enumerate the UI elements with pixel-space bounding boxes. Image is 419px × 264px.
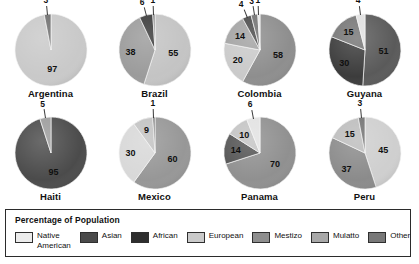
legend-item-mestizo: Mestizo bbox=[252, 231, 302, 243]
slice-value-label: 9 bbox=[144, 126, 149, 135]
slice-leader-line bbox=[44, 109, 46, 118]
slice-value-label: 30 bbox=[339, 58, 349, 67]
pie-graphic: 582014431 bbox=[224, 14, 296, 86]
pie-chart-panama: 7014106Panama bbox=[207, 103, 312, 206]
slice-value-label: 10 bbox=[239, 130, 249, 139]
slice-value-label: 20 bbox=[233, 56, 243, 65]
slice-value-label: 4 bbox=[356, 0, 361, 5]
legend-item-other: Other bbox=[368, 231, 410, 243]
legend-item-african: African bbox=[131, 231, 178, 243]
slice-value-label: 55 bbox=[168, 49, 178, 58]
slice-value-label: 70 bbox=[270, 160, 280, 169]
country-label: Colombia bbox=[207, 88, 312, 99]
legend-label: Native American bbox=[37, 231, 71, 250]
slice-value-label: 1 bbox=[256, 0, 261, 4]
pie-chart-argentina: 973Argentina bbox=[0, 0, 103, 103]
pie-graphic: 955 bbox=[15, 117, 87, 189]
legend-label: European bbox=[209, 231, 244, 241]
legend-swatch bbox=[252, 232, 270, 243]
legend-title: Percentage of Population bbox=[15, 215, 120, 225]
slice-value-label: 15 bbox=[344, 28, 354, 37]
slice-value-label: 3 bbox=[249, 0, 254, 5]
slice-leader-line bbox=[253, 6, 255, 15]
pie-chart-grid: 973Argentina553861Brazil582014431Colombi… bbox=[0, 0, 419, 206]
pie-graphic: 973 bbox=[15, 14, 87, 86]
slice-value-label: 38 bbox=[125, 47, 135, 56]
slice-value-label: 1 bbox=[151, 99, 156, 108]
pie-graphic: 4537153 bbox=[329, 117, 401, 189]
country-label: Peru bbox=[312, 191, 417, 202]
legend-item-european: European bbox=[187, 231, 244, 243]
country-label: Guyana bbox=[312, 88, 417, 99]
legend-panel: Percentage of Population Native American… bbox=[5, 209, 411, 257]
legend-item-asian: Asian bbox=[80, 231, 122, 243]
legend-label: African bbox=[153, 231, 178, 241]
legend-label: Mulatto bbox=[333, 231, 359, 241]
country-label: Haiti bbox=[0, 191, 103, 202]
pie-chart-colombia: 582014431Colombia bbox=[207, 0, 312, 103]
pie-chart-peru: 4537153Peru bbox=[312, 103, 417, 206]
slice-value-label: 58 bbox=[273, 50, 283, 59]
slice-leader-line bbox=[359, 6, 361, 15]
legend-label: Other bbox=[390, 231, 410, 241]
country-label: Panama bbox=[207, 191, 312, 202]
slice-value-label: 95 bbox=[48, 167, 58, 176]
slice-value-label: 37 bbox=[341, 164, 351, 173]
slice-value-label: 14 bbox=[235, 31, 245, 40]
country-label: Argentina bbox=[0, 88, 103, 99]
slice-value-label: 51 bbox=[378, 46, 388, 55]
legend-swatch bbox=[131, 232, 149, 243]
country-label: Mexico bbox=[102, 191, 207, 202]
legend-items: Native AmericanAsianAfricanEuropeanMesti… bbox=[15, 231, 406, 250]
slice-value-label: 6 bbox=[140, 0, 145, 6]
slice-value-label: 6 bbox=[248, 100, 253, 109]
pie-graphic: 5130154 bbox=[329, 14, 401, 86]
slice-value-label: 97 bbox=[47, 64, 57, 73]
legend-swatch bbox=[368, 232, 386, 243]
slice-value-label: 15 bbox=[345, 130, 355, 139]
legend-label: Asian bbox=[102, 231, 122, 241]
slice-leader-line bbox=[360, 109, 362, 118]
slice-leader-line bbox=[46, 6, 48, 15]
slice-value-label: 1 bbox=[151, 0, 156, 4]
slice-value-label: 4 bbox=[239, 0, 244, 8]
slice-value-label: 30 bbox=[125, 149, 135, 158]
pie-chart-mexico: 603091Mexico bbox=[102, 103, 207, 206]
slice-value-label: 60 bbox=[168, 154, 178, 163]
slice-value-label: 3 bbox=[357, 99, 362, 108]
legend-item-native-american: Native American bbox=[15, 231, 71, 250]
slice-value-label: 45 bbox=[378, 146, 388, 155]
pie-chart-guyana: 5130154Guyana bbox=[312, 0, 417, 103]
pie-graphic: 7014106 bbox=[224, 117, 296, 189]
slice-value-label: 14 bbox=[231, 146, 241, 155]
legend-label: Mestizo bbox=[274, 231, 302, 241]
pie-chart-haiti: 955Haiti bbox=[0, 103, 103, 206]
legend-swatch bbox=[311, 232, 329, 243]
legend-swatch bbox=[187, 232, 205, 243]
legend-swatch bbox=[80, 232, 98, 243]
pie-chart-figure: 973Argentina553861Brazil582014431Colombi… bbox=[0, 0, 419, 264]
pie-graphic: 603091 bbox=[119, 117, 191, 189]
legend-item-mulatto: Mulatto bbox=[311, 231, 359, 243]
legend-swatch bbox=[15, 232, 33, 243]
pie-graphic: 553861 bbox=[119, 14, 191, 86]
slice-value-label: 3 bbox=[43, 0, 48, 4]
pie-chart-brazil: 553861Brazil bbox=[102, 0, 207, 103]
slice-value-label: 5 bbox=[40, 99, 45, 108]
